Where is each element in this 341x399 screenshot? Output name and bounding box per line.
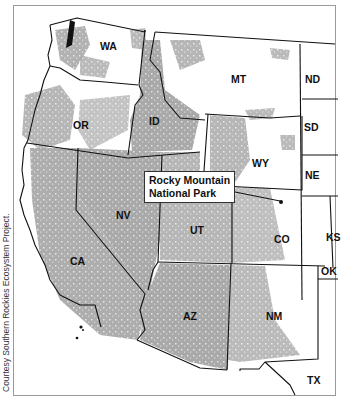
- park-location-marker: [279, 200, 283, 204]
- rocky-mountain-np-callout: Rocky Mountain National Park: [144, 171, 235, 203]
- state-label-nd: ND: [305, 74, 320, 85]
- state-label-az: AZ: [183, 311, 197, 322]
- state-label-ut: UT: [190, 225, 204, 236]
- state-label-nv: NV: [116, 210, 131, 221]
- state-label-ca: CA: [70, 256, 85, 267]
- state-label-id: ID: [149, 116, 160, 127]
- state-label-wy: WY: [252, 158, 269, 169]
- callout-line-2: National Park: [149, 187, 230, 200]
- callout-line-1: Rocky Mountain: [149, 174, 230, 187]
- state-label-co: CO: [274, 234, 290, 245]
- state-label-ne: NE: [305, 170, 320, 181]
- state-label-wa: WA: [100, 41, 117, 52]
- state-label-sd: SD: [304, 122, 319, 133]
- state-label-tx: TX: [307, 375, 320, 386]
- state-label-mt: MT: [231, 74, 246, 85]
- state-label-or: OR: [73, 120, 89, 131]
- state-label-ks: KS: [326, 232, 341, 243]
- state-label-nm: NM: [266, 311, 282, 322]
- state-label-ok: OK: [321, 266, 337, 277]
- image-credit: Courtesy Southern Rockies Ecosystem Proj…: [1, 213, 11, 392]
